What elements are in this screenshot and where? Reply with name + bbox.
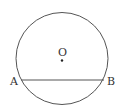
point-b-label: B: [107, 76, 115, 87]
point-a-label: A: [10, 76, 18, 87]
center-label: O: [58, 47, 67, 58]
center-point: [61, 59, 63, 61]
